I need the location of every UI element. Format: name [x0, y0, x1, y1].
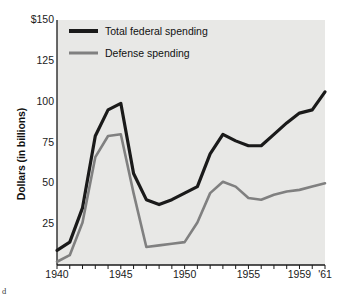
x-tick-label: 1950 [163, 268, 207, 280]
y-tick-label: 50 [42, 176, 54, 188]
x-tick-label: 1955 [226, 268, 270, 280]
x-tick-label: 1940 [35, 268, 79, 280]
y-tick-label: 75 [42, 136, 54, 148]
y-tick-label: 25 [42, 217, 54, 229]
legend-label-defense-spending: Defense spending [105, 47, 190, 59]
legend-label-total-federal-spending: Total federal spending [105, 25, 208, 37]
y-axis-title: Dollars (in billions) [15, 89, 27, 219]
plot-area: Total federal spendingDefense spending [0, 0, 342, 301]
spending-line-chart: Dollars (in billions) 255075100125$150 1… [0, 0, 342, 301]
plot-background [57, 20, 325, 265]
page-corner-mark: d [2, 286, 6, 296]
y-tick-label: 100 [36, 95, 54, 107]
y-tick-label: $150 [31, 13, 54, 25]
y-tick-label: 125 [36, 54, 54, 66]
x-tick-label: 1945 [99, 268, 143, 280]
x-tick-label: '61 [303, 268, 342, 280]
